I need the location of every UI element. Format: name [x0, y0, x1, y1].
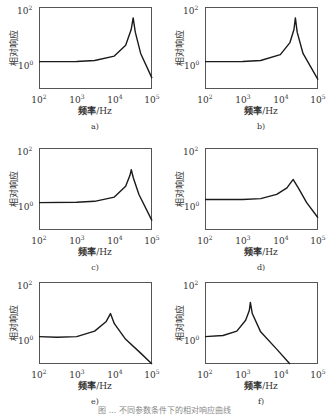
x-tick-label: 105 [144, 233, 159, 246]
chart-panel-b: 102 100 102 103 104 105 相对响应 频率/Hz b) [166, 0, 329, 134]
x-axis-label: 频率/Hz [78, 379, 112, 392]
y-tick-label: 100 [184, 333, 199, 346]
x-axis-label: 频率/Hz [244, 245, 278, 258]
y-tick-label: 102 [183, 144, 198, 157]
response-curve [205, 282, 318, 364]
chart-panel-a: 102 100 102 103 104 105 相对响应 频率/Hz a) [0, 0, 164, 134]
y-tick-label: 100 [18, 333, 33, 346]
response-curve [205, 148, 318, 230]
x-axis-label: 频率/Hz [244, 379, 278, 392]
y-tick-label: 100 [184, 199, 199, 212]
x-tick-label: 105 [310, 233, 325, 246]
chart-panel-e: 102 100 102 103 104 105 相对响应 频率/Hz e) [0, 275, 164, 409]
x-tick-label: 102 [197, 233, 212, 246]
y-tick-label: 102 [17, 3, 32, 16]
x-tick-label: 102 [197, 367, 212, 380]
x-tick-label: 102 [31, 367, 46, 380]
y-tick-label: 100 [184, 58, 199, 71]
x-tick-label: 105 [144, 92, 159, 105]
panel-label: b) [257, 122, 265, 131]
y-axis-label: 相对响应 [173, 30, 186, 66]
panel-label: a) [91, 122, 99, 131]
y-axis-label: 相对响应 [7, 30, 20, 66]
y-tick-label: 100 [18, 199, 33, 212]
chart-panel-d: 102 100 102 103 104 105 相对响应 频率/Hz d) [166, 141, 329, 275]
y-tick-label: 100 [18, 58, 33, 71]
response-curve [205, 7, 318, 89]
x-axis-label: 频率/Hz [244, 104, 278, 117]
x-tick-label: 105 [144, 367, 159, 380]
y-tick-label: 102 [17, 278, 32, 291]
response-curve [39, 282, 152, 364]
x-tick-label: 105 [310, 367, 325, 380]
response-curve [39, 148, 152, 230]
y-tick-label: 102 [17, 144, 32, 157]
y-axis-label: 相对响应 [7, 171, 20, 207]
response-curve [39, 7, 152, 89]
x-tick-label: 105 [310, 92, 325, 105]
panel-label: c) [91, 263, 99, 272]
chart-panel-f: 102 100 102 103 104 105 相对响应 频率/Hz f) [166, 275, 329, 409]
figure-caption: 图 ... 不同参数条件下的相对响应曲线 [0, 404, 329, 415]
panel-label: d) [257, 263, 265, 272]
chart-panel-c: 102 100 102 103 104 105 相对响应 频率/Hz c) [0, 141, 164, 275]
x-axis-label: 频率/Hz [78, 104, 112, 117]
x-tick-label: 102 [31, 233, 46, 246]
y-axis-label: 相对响应 [173, 305, 186, 341]
y-tick-label: 102 [183, 278, 198, 291]
x-tick-label: 102 [31, 92, 46, 105]
x-axis-label: 频率/Hz [78, 245, 112, 258]
y-axis-label: 相对响应 [7, 305, 20, 341]
y-axis-label: 相对响应 [173, 171, 186, 207]
y-tick-label: 102 [183, 3, 198, 16]
x-tick-label: 102 [197, 92, 212, 105]
